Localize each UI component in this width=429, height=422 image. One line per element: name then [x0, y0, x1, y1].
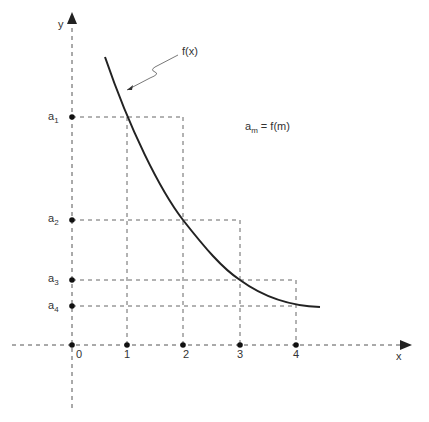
y-marker-a2: a2: [48, 212, 59, 227]
formula-label: am = f(m): [245, 120, 290, 135]
annotation-squiggle: [127, 55, 178, 90]
y-marker-a3: a3: [48, 272, 59, 287]
x-tick-1: 1: [124, 348, 130, 360]
y-axis-arrow-icon: [67, 12, 77, 24]
x-axis-arrow-icon: [400, 340, 412, 350]
y-marker-a4: a4: [48, 299, 59, 314]
guide-lines: [72, 117, 296, 345]
x-tick-0: 0: [76, 348, 82, 360]
curve-label: f(x): [182, 45, 198, 57]
x-tick-3: 3: [237, 348, 243, 360]
x-tick-2: 2: [183, 348, 189, 360]
x-tick-4: 4: [293, 348, 299, 360]
y-axis-label: y: [58, 18, 64, 30]
y-marker-a1: a1: [48, 110, 59, 125]
diagram-canvas: y x 0 1 2 3 4 a1 a2 a3 a4 f(x) am = f(m): [0, 0, 429, 422]
axes: [12, 20, 402, 408]
annotation-arrow-icon: [127, 85, 133, 90]
curve-fx: [105, 57, 320, 307]
x-axis-label: x: [396, 350, 402, 362]
